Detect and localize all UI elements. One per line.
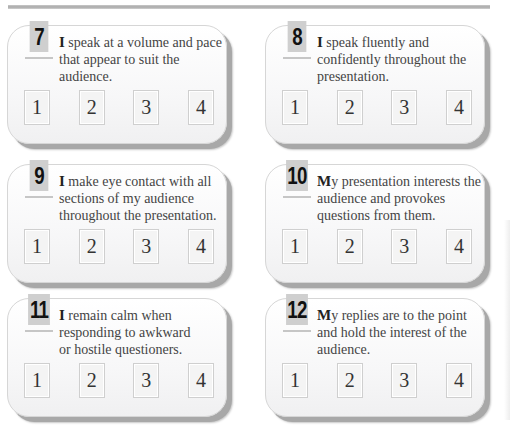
rating-scale: 1 2 3 4 — [24, 90, 214, 124]
rating-option-2[interactable]: 2 — [337, 363, 363, 398]
rating-scale: 1 2 3 4 — [282, 90, 472, 124]
rating-option-2[interactable]: 2 — [337, 90, 363, 125]
rating-option-3[interactable]: 3 — [133, 229, 159, 264]
number-underline — [283, 57, 311, 59]
statement-text: y replies are to the point and hold the … — [317, 308, 467, 357]
question-card-12: 12 My replies are to the point and hold … — [265, 298, 485, 417]
rating-option-4[interactable]: 4 — [188, 90, 214, 125]
lead-letter: M — [317, 173, 331, 189]
rating-scale: 1 2 3 4 — [282, 363, 472, 397]
rating-option-3[interactable]: 3 — [133, 90, 159, 125]
statement-text: speak at a volume and pace that appear t… — [59, 35, 222, 84]
question-statement: I speak at a volume and pace that appear… — [59, 34, 224, 85]
question-card-9: 9 I make eye contact with all sections o… — [7, 164, 227, 283]
question-number: 7 — [30, 21, 49, 52]
rating-option-2[interactable]: 2 — [79, 90, 105, 125]
number-underline — [283, 196, 311, 198]
rating-option-2[interactable]: 2 — [337, 229, 363, 264]
question-statement: My presentation interests the audience a… — [317, 173, 482, 224]
question-statement: I speak fluently and confidently through… — [317, 34, 482, 85]
rating-option-1[interactable]: 1 — [282, 90, 308, 125]
number-underline — [283, 330, 311, 332]
question-number: 11 — [28, 294, 50, 325]
rating-scale: 1 2 3 4 — [282, 229, 472, 263]
rating-option-4[interactable]: 4 — [446, 363, 472, 398]
number-underline — [25, 330, 53, 332]
question-card-11: 11 I remain calm when responding to awkw… — [7, 298, 227, 417]
rating-option-4[interactable]: 4 — [446, 229, 472, 264]
rating-option-4[interactable]: 4 — [446, 90, 472, 125]
rating-option-3[interactable]: 3 — [133, 363, 159, 398]
question-statement: I make eye contact with all sections of … — [59, 173, 229, 224]
question-number: 10 — [286, 160, 308, 191]
statement-text: speak fluently and confidently throughou… — [317, 35, 466, 84]
rating-option-3[interactable]: 3 — [391, 229, 417, 264]
rating-scale: 1 2 3 4 — [24, 229, 214, 263]
rating-scale: 1 2 3 4 — [24, 363, 214, 397]
rating-option-4[interactable]: 4 — [188, 229, 214, 264]
statement-text: y presentation interests the audience an… — [317, 174, 481, 223]
rating-option-3[interactable]: 3 — [391, 363, 417, 398]
rating-option-3[interactable]: 3 — [391, 90, 417, 125]
rating-option-2[interactable]: 2 — [79, 229, 105, 264]
rating-option-2[interactable]: 2 — [79, 363, 105, 398]
number-underline — [25, 196, 53, 198]
question-statement: I remain calm when responding to awkward… — [59, 307, 199, 358]
lead-letter: M — [317, 307, 331, 323]
question-number: 8 — [288, 21, 307, 52]
rating-option-1[interactable]: 1 — [282, 363, 308, 398]
question-statement: My replies are to the point and hold the… — [317, 307, 467, 358]
question-number: 9 — [30, 160, 49, 191]
statement-text: remain calm when responding to awkward o… — [59, 308, 190, 357]
question-card-8: 8 I speak fluently and confidently throu… — [265, 25, 485, 144]
number-underline — [25, 57, 53, 59]
top-divider — [8, 5, 490, 9]
rating-option-1[interactable]: 1 — [24, 90, 50, 125]
rating-option-1[interactable]: 1 — [24, 363, 50, 398]
rating-option-1[interactable]: 1 — [282, 229, 308, 264]
rating-option-1[interactable]: 1 — [24, 229, 50, 264]
question-card-7: 7 I speak at a volume and pace that appe… — [7, 25, 227, 144]
rating-option-4[interactable]: 4 — [188, 363, 214, 398]
page-edge — [504, 220, 510, 420]
statement-text: make eye contact with all sections of my… — [59, 174, 216, 223]
question-card-10: 10 My presentation interests the audienc… — [265, 164, 485, 283]
question-number: 12 — [286, 294, 308, 325]
